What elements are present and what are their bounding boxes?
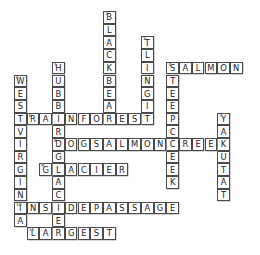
crossword-cell[interactable]: I xyxy=(52,113,65,126)
crossword-cell[interactable]: K xyxy=(103,62,116,75)
crossword-cell[interactable]: R xyxy=(52,125,65,138)
crossword-cell[interactable]: G xyxy=(78,138,91,151)
crossword-cell[interactable]: G xyxy=(65,227,78,240)
crossword-cell[interactable]: T xyxy=(217,163,230,176)
crossword-cell[interactable]: E xyxy=(78,227,91,240)
crossword-cell[interactable]: G xyxy=(154,202,167,215)
crossword-cell[interactable]: T xyxy=(14,113,27,126)
crossword-cell[interactable]: S xyxy=(39,202,52,215)
crossword-cell[interactable]: L xyxy=(52,163,65,176)
crossword-cell[interactable]: A xyxy=(14,214,27,227)
crossword-cell[interactable]: K xyxy=(166,176,179,189)
crossword-cell[interactable]: 6R xyxy=(27,113,40,126)
crossword-cell[interactable]: K xyxy=(217,138,230,151)
crossword-cell[interactable]: P xyxy=(90,202,103,215)
crossword-cell[interactable]: S xyxy=(90,138,103,151)
crossword-cell[interactable]: T xyxy=(217,189,230,202)
crossword-cell[interactable]: A xyxy=(103,202,116,215)
crossword-cell[interactable]: E xyxy=(166,163,179,176)
crossword-cell[interactable]: T xyxy=(103,227,116,240)
crossword-cell[interactable]: G xyxy=(52,151,65,164)
crossword-cell[interactable]: A xyxy=(39,113,52,126)
crossword-cell[interactable]: C xyxy=(166,125,179,138)
crossword-cell[interactable]: 3T xyxy=(141,36,154,49)
crossword-cell[interactable]: 9G xyxy=(39,163,52,176)
crossword-cell[interactable]: R xyxy=(179,138,192,151)
crossword-cell[interactable]: 7Y xyxy=(217,113,230,126)
crossword-cell[interactable]: N xyxy=(230,62,243,75)
crossword-cell[interactable]: S xyxy=(128,202,141,215)
crossword-cell[interactable]: 10I xyxy=(14,202,27,215)
crossword-cell[interactable]: E xyxy=(78,202,91,215)
crossword-cell[interactable]: B xyxy=(52,87,65,100)
crossword-cell[interactable]: A xyxy=(179,62,192,75)
crossword-cell[interactable]: M xyxy=(205,62,218,75)
crossword-cell[interactable]: I xyxy=(141,62,154,75)
crossword-cell[interactable]: N xyxy=(154,138,167,151)
crossword-cell[interactable]: C xyxy=(78,163,91,176)
crossword-cell[interactable]: R xyxy=(14,151,27,164)
crossword-cell[interactable]: G xyxy=(141,87,154,100)
crossword-cell[interactable]: R xyxy=(103,113,116,126)
crossword-cell[interactable]: F xyxy=(78,113,91,126)
crossword-cell[interactable]: A xyxy=(52,176,65,189)
crossword-cell[interactable]: 11L xyxy=(27,227,40,240)
crossword-cell[interactable]: 1H xyxy=(52,62,65,75)
crossword-cell[interactable]: S xyxy=(116,202,129,215)
crossword-cell[interactable]: N xyxy=(65,113,78,126)
crossword-cell[interactable]: L xyxy=(141,49,154,62)
crossword-cell[interactable]: A xyxy=(39,227,52,240)
crossword-cell[interactable]: S xyxy=(90,227,103,240)
crossword-cell[interactable]: S xyxy=(14,100,27,113)
crossword-cell[interactable]: O xyxy=(65,138,78,151)
crossword-cell[interactable]: A xyxy=(103,138,116,151)
crossword-cell[interactable]: N xyxy=(27,202,40,215)
crossword-cell[interactable]: T xyxy=(166,75,179,88)
crossword-cell[interactable]: V xyxy=(14,125,27,138)
crossword-cell[interactable]: I xyxy=(14,176,27,189)
crossword-cell[interactable]: L xyxy=(116,138,129,151)
crossword-cell[interactable]: 4S xyxy=(166,62,179,75)
crossword-cell[interactable]: U xyxy=(52,75,65,88)
crossword-cell[interactable]: E xyxy=(166,151,179,164)
crossword-cell[interactable]: L xyxy=(103,24,116,37)
crossword-cell[interactable]: E xyxy=(192,138,205,151)
crossword-cell[interactable]: N xyxy=(14,189,27,202)
crossword-cell[interactable]: E xyxy=(14,87,27,100)
crossword-cell[interactable]: 2B xyxy=(103,11,116,24)
crossword-cell[interactable]: E xyxy=(166,100,179,113)
crossword-cell[interactable]: L xyxy=(192,62,205,75)
crossword-cell[interactable]: C xyxy=(166,138,179,151)
crossword-cell[interactable]: A xyxy=(217,176,230,189)
crossword-cell[interactable]: I xyxy=(52,202,65,215)
crossword-cell[interactable]: C xyxy=(52,189,65,202)
crossword-cell[interactable]: E xyxy=(166,202,179,215)
crossword-cell[interactable]: E xyxy=(103,163,116,176)
crossword-cell[interactable]: O xyxy=(90,113,103,126)
crossword-cell[interactable]: M xyxy=(128,138,141,151)
crossword-cell[interactable]: O xyxy=(217,62,230,75)
crossword-cell[interactable]: O xyxy=(141,138,154,151)
crossword-cell[interactable]: S xyxy=(128,113,141,126)
crossword-cell[interactable]: E xyxy=(103,87,116,100)
crossword-cell[interactable]: A xyxy=(217,125,230,138)
crossword-cell[interactable]: G xyxy=(14,163,27,176)
crossword-cell[interactable]: E xyxy=(116,113,129,126)
crossword-cell[interactable]: A xyxy=(65,163,78,176)
crossword-cell[interactable]: C xyxy=(103,49,116,62)
crossword-cell[interactable]: R xyxy=(52,227,65,240)
crossword-cell[interactable]: T xyxy=(141,113,154,126)
crossword-cell[interactable]: D xyxy=(65,202,78,215)
crossword-cell[interactable]: E xyxy=(205,138,218,151)
crossword-cell[interactable]: B xyxy=(103,75,116,88)
crossword-cell[interactable]: N xyxy=(141,75,154,88)
crossword-cell[interactable]: A xyxy=(103,100,116,113)
crossword-cell[interactable]: B xyxy=(52,100,65,113)
crossword-cell[interactable]: I xyxy=(14,138,27,151)
crossword-cell[interactable]: R xyxy=(116,163,129,176)
crossword-cell[interactable]: 8D xyxy=(52,138,65,151)
crossword-cell[interactable]: P xyxy=(166,113,179,126)
crossword-cell[interactable]: E xyxy=(52,214,65,227)
crossword-cell[interactable]: U xyxy=(217,151,230,164)
crossword-cell[interactable]: 5W xyxy=(14,75,27,88)
